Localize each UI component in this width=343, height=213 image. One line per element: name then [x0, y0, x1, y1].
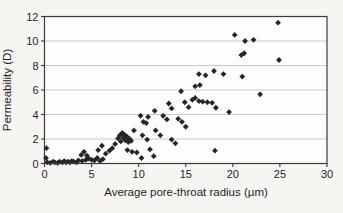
x-axis-tick-labels: 051015202530	[41, 168, 333, 180]
y-tick-label-4: 4	[32, 109, 38, 121]
x-tick-label-0: 0	[41, 168, 47, 180]
x-tick-label-20: 20	[227, 168, 239, 180]
x-tick-label-10: 10	[133, 168, 145, 180]
y-tick-label-0: 0	[32, 158, 38, 170]
scatter-chart: 051015202530 024681012 Average pore-thro…	[0, 0, 343, 213]
y-axis-tick-labels: 024681012	[26, 11, 38, 170]
y-tick-label-6: 6	[32, 84, 38, 96]
y-tick-label-2: 2	[32, 133, 38, 145]
x-tick-label-30: 30	[321, 168, 333, 180]
x-tick-label-25: 25	[274, 168, 286, 180]
x-axis-title: Average pore-throat radius (μm)	[104, 186, 268, 198]
permeability-scatter-figure: 051015202530 024681012 Average pore-thro…	[0, 0, 343, 213]
y-tick-label-8: 8	[32, 60, 38, 72]
x-tick-label-5: 5	[89, 168, 95, 180]
y-axis-title: Permeability (D)	[1, 49, 13, 132]
x-tick-label-15: 15	[180, 168, 192, 180]
y-tick-label-10: 10	[26, 35, 38, 47]
y-tick-label-12: 12	[26, 11, 38, 23]
